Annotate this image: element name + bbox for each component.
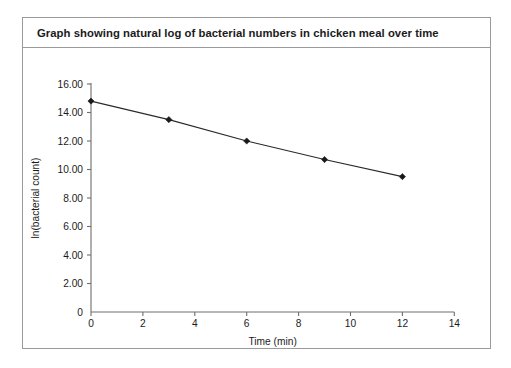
y-tick-label: 14.00: [58, 107, 84, 118]
x-tick-label: 4: [192, 318, 198, 329]
chart-title-bar: Graph showing natural log of bacterial n…: [23, 18, 490, 48]
x-axis-title: Time (min): [249, 336, 297, 347]
x-axis-tick-labels: 02468101214: [88, 318, 460, 329]
y-tick-label: 16.00: [58, 79, 84, 90]
x-tick-label: 12: [397, 318, 409, 329]
data-point-marker: [399, 174, 405, 180]
data-point-marker: [244, 138, 250, 144]
y-tick-label: 12.00: [58, 136, 84, 147]
x-tick-label: 6: [244, 318, 250, 329]
y-tick-label: 8.00: [63, 193, 83, 204]
y-tick-label: 0: [77, 307, 83, 318]
y-axis-tick-labels: 02.004.006.008.0010.0012.0014.0016.00: [58, 79, 84, 318]
x-axis-tick-marks: [91, 312, 454, 316]
data-point-marker: [321, 156, 327, 162]
data-point-marker: [88, 98, 94, 104]
chart-title: Graph showing natural log of bacterial n…: [37, 27, 439, 39]
x-tick-label: 8: [296, 318, 302, 329]
chart-figure: Graph showing natural log of bacterial n…: [22, 17, 491, 349]
chart-plot-area: 02.004.006.008.0010.0012.0014.0016.00 02…: [23, 48, 490, 349]
x-tick-label: 0: [88, 318, 94, 329]
data-point-marker: [166, 117, 172, 123]
x-tick-label: 2: [140, 318, 146, 329]
y-tick-label: 4.00: [63, 250, 83, 261]
x-tick-label: 14: [449, 318, 461, 329]
y-tick-label: 10.00: [58, 164, 84, 175]
line-chart-svg: 02.004.006.008.0010.0012.0014.0016.00 02…: [23, 48, 490, 349]
y-axis-tick-marks: [87, 84, 91, 284]
y-tick-label: 2.00: [63, 278, 83, 289]
series-markers: [88, 98, 406, 180]
x-tick-label: 10: [345, 318, 357, 329]
y-axis-title: ln(bacterial count): [30, 158, 41, 239]
y-tick-label: 6.00: [63, 221, 83, 232]
